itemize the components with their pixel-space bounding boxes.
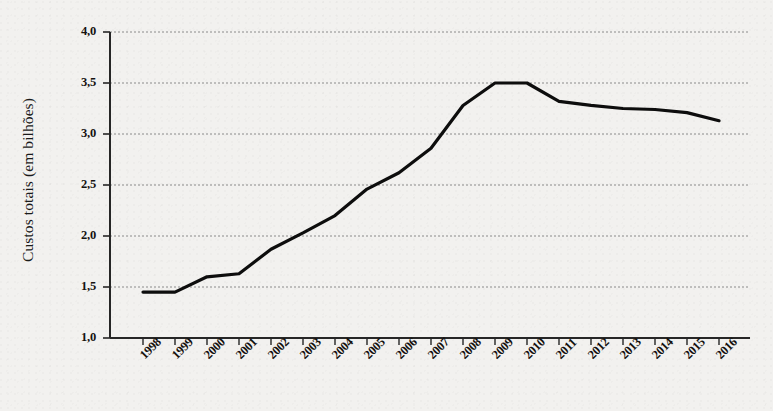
y-axis-ticks-group [103, 32, 110, 338]
y-axis-tick-label: 1,5 [52, 279, 96, 294]
y-axis-tick-label: 3,5 [52, 75, 96, 90]
series-line-custos-totais [143, 83, 719, 292]
y-axis-tick-label: 3,0 [52, 126, 96, 141]
y-axis-tick-label: 4,0 [52, 24, 96, 39]
y-axis-tick-label: 2,5 [52, 177, 96, 192]
y-axis-tick-label: 1,0 [52, 330, 96, 345]
y-axis-tick-label: 2,0 [52, 228, 96, 243]
data-series-group [143, 83, 719, 292]
chart-container: Custos totais (em bilhões) 1,01,52,02,53… [0, 0, 773, 411]
gridlines-group [110, 32, 750, 287]
